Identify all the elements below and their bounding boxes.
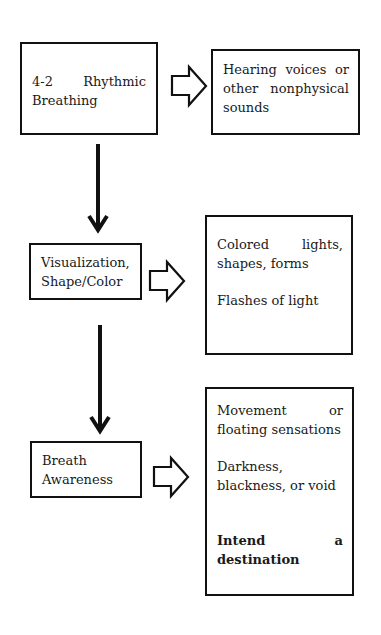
right-block-arrow-icon bbox=[171, 66, 207, 106]
effect-line-emphasis: destination bbox=[217, 550, 343, 569]
effect-text: Colored lights, shapes, forms Flashes of… bbox=[217, 235, 343, 310]
effect-line: Movement or bbox=[217, 401, 343, 420]
effect-box-hearing-voices: Hearingvoicesor othernonphysical sounds bbox=[211, 49, 360, 135]
down-arrow-icon bbox=[86, 144, 110, 234]
label-part: Rhythmic bbox=[83, 72, 146, 91]
label-part: Breathing bbox=[32, 91, 146, 110]
word: a bbox=[335, 531, 343, 550]
label-line: Visualization, bbox=[41, 253, 139, 272]
step-box-rhythmic-breathing: 4-2 Rhythmic Breathing bbox=[20, 42, 158, 135]
effect-box-movement: Movement or floating sensations Darkness… bbox=[205, 387, 354, 596]
effect-line: sounds bbox=[223, 98, 349, 117]
label-line: Shape/Color bbox=[41, 272, 139, 291]
effect-text: Movement or floating sensations Darkness… bbox=[217, 401, 343, 569]
word: Colored bbox=[217, 235, 269, 254]
effect-line: blackness, or void bbox=[217, 476, 343, 495]
down-arrow-icon bbox=[88, 325, 112, 435]
step-box-visualization: Visualization, Shape/Color bbox=[29, 243, 142, 300]
effect-line: floating sensations bbox=[217, 420, 343, 439]
step-label: 4-2 Rhythmic Breathing bbox=[32, 72, 146, 110]
label-line: Breath bbox=[42, 451, 140, 470]
right-block-arrow-icon bbox=[153, 457, 189, 497]
label-part: 4-2 bbox=[32, 72, 53, 91]
word: or bbox=[329, 401, 343, 420]
word: Movement bbox=[217, 401, 287, 420]
step-box-breath-awareness: Breath Awareness bbox=[30, 441, 142, 498]
effect-line: Colored lights, bbox=[217, 235, 343, 254]
effect-line: shapes, forms bbox=[217, 254, 343, 273]
step-label: Breath Awareness bbox=[42, 451, 140, 489]
label-line: Awareness bbox=[42, 470, 140, 489]
word: Intend bbox=[217, 531, 265, 550]
effect-box-colored-lights: Colored lights, shapes, forms Flashes of… bbox=[205, 215, 353, 355]
effect-line-emphasis: Intend a bbox=[217, 531, 343, 550]
effect-line: Hearingvoicesor bbox=[223, 60, 349, 79]
effect-line: Darkness, bbox=[217, 457, 343, 476]
effect-line: Flashes of light bbox=[217, 291, 343, 310]
effect-text: Hearingvoicesor othernonphysical sounds bbox=[223, 60, 349, 117]
right-block-arrow-icon bbox=[149, 261, 185, 301]
word: lights, bbox=[302, 235, 343, 254]
effect-line: othernonphysical bbox=[223, 79, 349, 98]
step-label: Visualization, Shape/Color bbox=[41, 253, 139, 291]
